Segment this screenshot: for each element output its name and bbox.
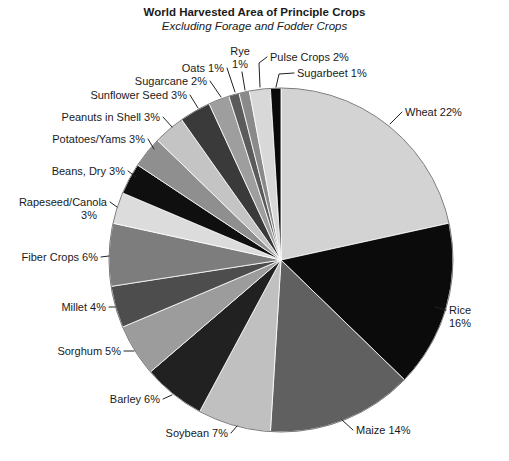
label-rye: Rye1% <box>230 45 250 70</box>
label-fiber-crops: Fiber Crops 6% <box>22 251 99 263</box>
label-sorghum: Sorghum 5% <box>57 345 121 357</box>
leader-line-pulse-crops <box>259 57 267 87</box>
label-sunflower-seed: Sunflower Seed 3% <box>90 89 187 101</box>
label-peanuts-in-shell: Peanuts in Shell 3% <box>62 111 161 123</box>
label-beans-dry: Beans, Dry 3% <box>52 165 126 177</box>
leader-line-maize <box>342 420 353 430</box>
leader-line-fiber-crops <box>101 256 109 257</box>
leader-line-sugarbeet <box>276 73 294 87</box>
label-barley: Barley 6% <box>110 393 160 405</box>
pie-slices <box>109 88 453 432</box>
leader-line-soybean <box>231 426 237 433</box>
label-oats: Oats 1% <box>182 62 224 74</box>
label-rapeseed-canola: Rapeseed/Canola3% <box>19 196 108 221</box>
leader-line-wheat <box>390 112 402 124</box>
leader-line-rapeseed-canola <box>110 202 117 207</box>
label-potatoes-yams: Potatoes/Yams 3% <box>52 133 145 145</box>
label-sugarcane: Sugarcane 2% <box>135 75 207 87</box>
label-soybean: Soybean 7% <box>166 427 229 439</box>
leader-line-oats <box>227 68 235 92</box>
label-sugarbeet: Sugarbeet 1% <box>297 67 367 79</box>
pie-chart: Wheat 22%Rice16%Maize 14%Soybean 7%Barle… <box>0 0 509 461</box>
label-wheat: Wheat 22% <box>405 106 462 118</box>
leader-line-peanuts-in-shell <box>163 117 172 127</box>
label-millet: Millet 4% <box>61 301 106 313</box>
label-rice: Rice16% <box>449 304 471 329</box>
leader-line-barley <box>163 395 172 399</box>
label-pulse-crops: Pulse Crops 2% <box>270 51 349 63</box>
leader-line-sugarcane <box>210 81 221 97</box>
leader-line-sunflower-seed <box>190 95 198 108</box>
leader-line-rye <box>242 72 245 90</box>
label-maize: Maize 14% <box>356 424 411 436</box>
